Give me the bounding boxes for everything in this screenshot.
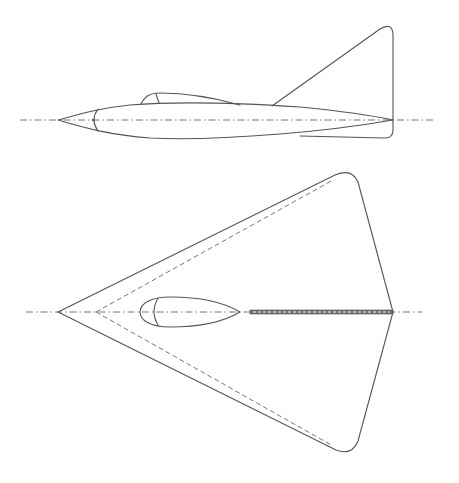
side-view xyxy=(20,26,436,138)
plan-view xyxy=(26,173,422,452)
plan-canopy-frame xyxy=(154,298,158,325)
hidden-line-lower xyxy=(96,312,333,446)
dorsal-spine xyxy=(250,310,393,314)
hidden-line-upper xyxy=(96,180,333,312)
vertical-fin xyxy=(272,26,393,138)
canopy-frame xyxy=(156,94,159,103)
nose-point xyxy=(92,119,94,121)
fuselage xyxy=(58,103,393,139)
aircraft-drawing xyxy=(0,0,459,483)
